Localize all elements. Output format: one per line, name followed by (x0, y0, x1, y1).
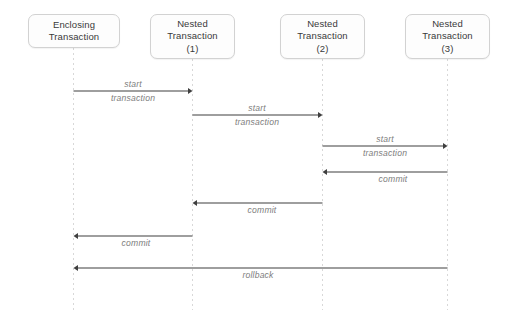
sequence-diagram: EnclosingTransactionNestedTransaction(1)… (0, 0, 505, 323)
message-label-commit-1: commit (122, 238, 151, 249)
participant-label-line: Transaction (422, 30, 472, 43)
message-label-commit-3: commit (379, 174, 408, 185)
participant-box-enclosing[interactable]: EnclosingTransaction (28, 14, 120, 48)
participant-label-line: Nested (432, 18, 463, 31)
message-label-commit-2: commit (248, 205, 277, 216)
arrowhead-start-3 (443, 143, 448, 149)
participant-label-line: (3) (442, 43, 454, 56)
participant-label-line: Enclosing (53, 19, 95, 32)
participant-label-line: (2) (317, 43, 329, 56)
message-label-start-2-bottom: transaction (235, 117, 279, 128)
participant-label-line: Transaction (297, 30, 347, 43)
arrowhead-start-1 (188, 88, 193, 94)
message-label-start-1-top: start (124, 78, 142, 89)
participant-box-nested2[interactable]: NestedTransaction(2) (280, 14, 365, 59)
message-label-start-3-bottom: transaction (363, 148, 407, 159)
message-label-start-3-top: start (376, 133, 394, 144)
participant-box-nested3[interactable]: NestedTransaction(3) (405, 14, 490, 59)
arrowhead-rollback (74, 265, 79, 271)
participant-box-nested1[interactable]: NestedTransaction(1) (150, 14, 235, 59)
participant-label-line: Nested (307, 18, 338, 31)
arrowhead-commit-3 (323, 169, 328, 175)
message-label-rollback: rollback (242, 270, 273, 281)
participant-label-line: Nested (177, 18, 208, 31)
participant-label-line: Transaction (49, 31, 99, 44)
arrowhead-start-2 (318, 112, 323, 118)
arrowhead-commit-2 (193, 200, 198, 206)
message-label-start-2-top: start (248, 102, 266, 113)
participant-label-line: Transaction (167, 30, 217, 43)
arrowhead-commit-1 (74, 233, 79, 239)
message-label-start-1-bottom: transaction (111, 93, 155, 104)
participant-label-line: (1) (187, 43, 199, 56)
